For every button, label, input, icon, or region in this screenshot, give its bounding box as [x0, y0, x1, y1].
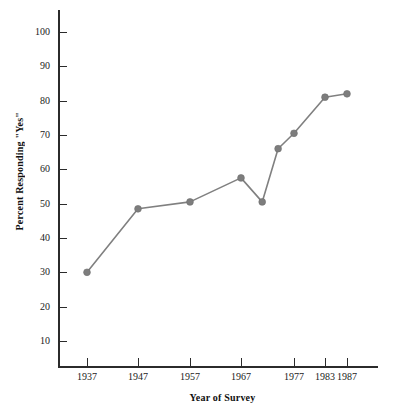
data-point [275, 145, 282, 152]
series-points [84, 90, 351, 275]
x-tick-label: 1947 [128, 372, 148, 382]
x-tick-label: 1977 [284, 372, 304, 382]
data-point [344, 90, 351, 97]
data-point [259, 199, 266, 206]
x-tick-label: 1967 [231, 372, 251, 382]
series-line [87, 94, 347, 272]
y-tick-label: 40 [16, 233, 50, 243]
y-tick-label: 50 [16, 199, 50, 209]
y-tick-label: 80 [16, 96, 50, 106]
data-point [187, 199, 194, 206]
data-point [291, 130, 298, 137]
y-tick-label: 60 [16, 164, 50, 174]
data-point [84, 269, 91, 276]
data-point [322, 94, 329, 101]
x-tick-label: 1937 [77, 372, 97, 382]
plot-area: 100908070605040302010 193719471957196719… [58, 10, 378, 368]
data-point [238, 175, 245, 182]
data-series [58, 10, 378, 368]
chart-page: Percent Responding "Yes" 100908070605040… [0, 0, 403, 415]
x-tick-label: 1983 [315, 372, 335, 382]
y-tick-label: 20 [16, 302, 50, 312]
y-tick-label: 30 [16, 267, 50, 277]
x-tick-label: 1987 [337, 372, 357, 382]
data-point [135, 205, 142, 212]
x-tick-label: 1957 [180, 372, 200, 382]
y-tick-label: 70 [16, 130, 50, 140]
y-tick-label: 100 [16, 27, 50, 37]
y-tick-label: 10 [16, 336, 50, 346]
x-axis-title: Year of Survey [0, 392, 403, 403]
y-tick-label: 90 [16, 61, 50, 71]
